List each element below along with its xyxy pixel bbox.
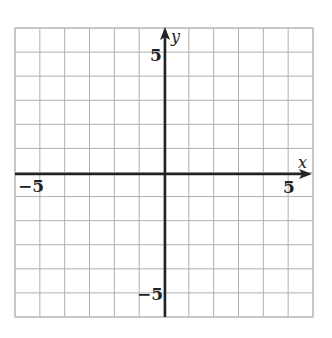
coordinate-plane: x y −5 5 5 −5	[0, 0, 332, 338]
x-axis-label: x	[298, 153, 307, 172]
y-axis-label: y	[170, 27, 181, 46]
y-tick-pos5: 5	[150, 45, 162, 65]
x-tick-neg5: −5	[18, 176, 44, 196]
y-tick-neg5: −5	[137, 284, 163, 304]
x-tick-pos5: 5	[283, 177, 295, 197]
